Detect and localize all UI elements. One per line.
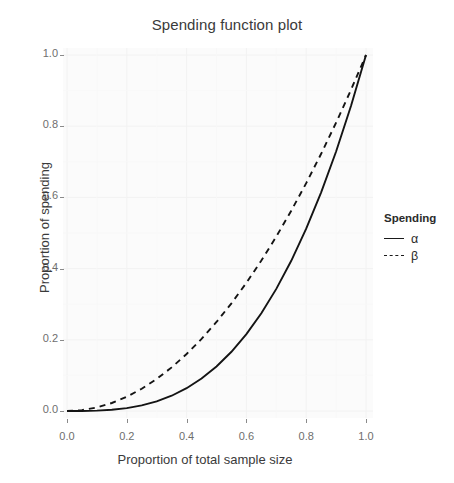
x-tick-label: 0.8 bbox=[286, 430, 326, 442]
x-tick-mark bbox=[67, 419, 68, 423]
x-tick-label: 0.4 bbox=[167, 430, 207, 442]
legend-key-dashed-line-icon bbox=[384, 250, 404, 262]
legend: Spending α β bbox=[384, 212, 450, 264]
y-tick-mark bbox=[60, 340, 64, 341]
y-tick-label: 0.0 bbox=[18, 403, 58, 415]
gridlines bbox=[63, 48, 373, 418]
x-axis-label: Proportion of total sample size bbox=[30, 452, 380, 467]
legend-label-alpha: α bbox=[411, 232, 418, 246]
x-tick-mark bbox=[187, 419, 188, 423]
legend-key-solid-line-icon bbox=[384, 233, 404, 245]
x-tick-label: 0.2 bbox=[107, 430, 147, 442]
legend-label-beta: β bbox=[411, 249, 418, 263]
y-tick-mark bbox=[60, 269, 64, 270]
x-tick-label: 0.6 bbox=[226, 430, 266, 442]
y-tick-mark bbox=[60, 55, 64, 56]
legend-item-alpha[interactable]: α bbox=[384, 230, 450, 247]
x-tick-label: 0.0 bbox=[47, 430, 87, 442]
legend-title: Spending bbox=[384, 212, 450, 224]
x-tick-mark bbox=[246, 419, 247, 423]
y-tick-mark bbox=[60, 411, 64, 412]
y-tick-mark bbox=[60, 126, 64, 127]
y-tick-mark bbox=[60, 197, 64, 198]
chart-figure: Spending function plot 0.00.20.40.60.81.… bbox=[0, 0, 454, 483]
x-tick-mark bbox=[127, 419, 128, 423]
legend-item-beta[interactable]: β bbox=[384, 247, 450, 264]
y-axis-label: Proportion of spending bbox=[37, 98, 52, 358]
x-tick-mark bbox=[306, 419, 307, 423]
x-tick-mark bbox=[366, 419, 367, 423]
x-tick-label: 1.0 bbox=[346, 430, 386, 442]
y-tick-label: 1.0 bbox=[18, 47, 58, 59]
